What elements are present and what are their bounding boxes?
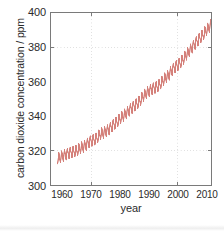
y-tick-label-380: 380 bbox=[28, 42, 46, 53]
x-tick-label-2010: 2010 bbox=[190, 189, 224, 200]
y-tick-label-400: 400 bbox=[28, 7, 46, 18]
y-tick-label-360: 360 bbox=[28, 77, 46, 88]
co2-line-plot bbox=[51, 13, 211, 185]
y-axis-label: carbon dioxide concentration / ppm bbox=[14, 8, 26, 188]
y-tick-label-320: 320 bbox=[28, 146, 46, 157]
y-tick-label-300: 300 bbox=[28, 181, 46, 192]
chart-screenshot: carbon dioxide concentration / ppm 400 3… bbox=[0, 0, 224, 231]
x-axis-label: year bbox=[50, 202, 212, 214]
y-tick-label-340: 340 bbox=[28, 111, 46, 122]
scan-artifact bbox=[0, 225, 224, 231]
plot-area bbox=[50, 12, 212, 186]
